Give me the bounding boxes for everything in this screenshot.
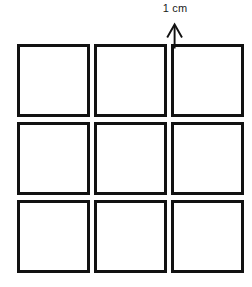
grid-cell-r1c1 (17, 44, 90, 117)
grid-cell-r2c1 (17, 122, 90, 195)
grid-cell-r3c1 (17, 200, 90, 273)
grid-cell-r2c2 (94, 122, 167, 195)
square-grid (17, 44, 241, 273)
grid-cell-r2c3 (171, 122, 244, 195)
measurement-annotation: 1 cm (140, 2, 210, 50)
grid-cell-r1c2 (94, 44, 167, 117)
up-caret-arrow-icon (140, 17, 210, 50)
grid-cell-r1c3 (171, 44, 244, 117)
measurement-label: 1 cm (140, 2, 210, 15)
grid-cell-r3c3 (171, 200, 244, 273)
grid-cell-r3c2 (94, 200, 167, 273)
grid-diagram-figure: 1 cm (0, 0, 252, 287)
